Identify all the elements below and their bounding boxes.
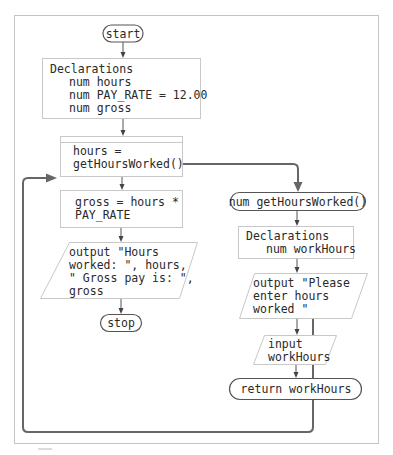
output-line: enter hours (253, 289, 329, 303)
calc-line: gross = hours * (75, 195, 179, 209)
flowchart-canvas: start Declarations num hours num PAY_RAT… (0, 0, 393, 455)
call-line: hours = (73, 144, 122, 158)
arrow-icon (294, 372, 299, 378)
main-output-parallelogram: output "Hours worked: ", hours, " Gross … (41, 243, 198, 299)
stop-label: stop (107, 316, 135, 330)
arrow-icon (119, 236, 124, 242)
output-line: output "Hours (69, 245, 159, 259)
arrow-icon (295, 220, 300, 226)
calc-line: PAY_RATE (75, 208, 130, 222)
return-terminal: return workHours (230, 379, 362, 400)
method-header-label: num getHoursWorked() (229, 195, 367, 209)
arrow-icon (121, 52, 126, 58)
declarations-title: Declarations (246, 229, 329, 243)
method-output-parallelogram: output "Please enter hours worked " (240, 274, 368, 319)
declaration-line: num PAY_RATE = 12.00 (69, 88, 208, 102)
arrow-icon (295, 329, 300, 335)
arrow-icon (119, 308, 124, 314)
output-line: worked: ", hours, (69, 258, 187, 272)
method-header-terminal: num getHoursWorked() (229, 193, 367, 211)
method-declarations-box: Declarations num workHours (239, 227, 357, 259)
main-declarations-box: Declarations num hours num PAY_RATE = 12… (43, 59, 208, 119)
output-line: " Gross pay is: ", (69, 271, 194, 285)
calculation-box: gross = hours * PAY_RATE (61, 191, 183, 228)
declarations-title: Declarations (50, 62, 133, 76)
output-line: worked " (253, 302, 308, 316)
input-line: input (268, 337, 303, 351)
call-arrowhead-icon (294, 182, 303, 192)
input-parallelogram: input workHours (254, 336, 337, 365)
arrow-icon (295, 267, 300, 273)
loop-arrowhead-icon (46, 174, 57, 183)
start-terminal: start (103, 25, 143, 42)
input-line: workHours (268, 350, 330, 364)
call-line: getHoursWorked() (73, 157, 184, 171)
output-line: output "Please (253, 276, 350, 290)
declaration-line: num hours (69, 75, 131, 89)
output-line: gross (69, 284, 104, 298)
return-label: return workHours (241, 382, 352, 396)
declaration-line: num gross (69, 101, 131, 115)
start-label: start (106, 27, 141, 41)
call-connector (181, 164, 298, 184)
arrow-icon (121, 130, 126, 136)
declaration-line: num workHours (266, 242, 356, 256)
arrow-icon (120, 184, 125, 190)
stop-terminal: stop (101, 315, 142, 332)
call-method-box: hours = getHoursWorked() (61, 137, 184, 177)
